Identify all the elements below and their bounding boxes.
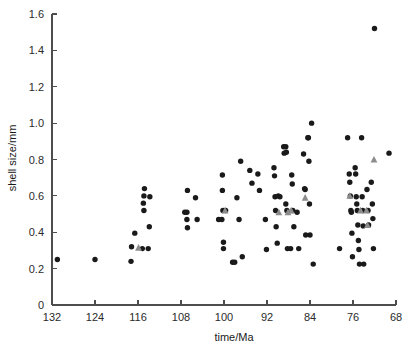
data-point-circle — [263, 217, 268, 222]
data-point-circle — [306, 159, 311, 164]
data-point-circle — [349, 230, 354, 235]
data-point-circle — [356, 247, 361, 252]
data-point-circle — [359, 135, 364, 140]
data-point-circle — [347, 171, 352, 176]
data-point-circle — [347, 180, 352, 185]
data-point-circle — [184, 217, 189, 222]
data-point-circle — [221, 246, 226, 251]
data-point-circle — [147, 194, 152, 199]
data-point-circle — [185, 225, 190, 230]
data-point-circle — [185, 188, 190, 193]
scatter-plot-figure: 00.20.40.60.81.01.21.41.6 13212411610810… — [0, 0, 416, 345]
y-axis-title: shell size/mm — [6, 125, 18, 192]
data-point-triangle — [371, 156, 378, 163]
x-tick-label: 84 — [304, 311, 316, 323]
data-point-circle — [301, 151, 306, 156]
tick-marks-group — [52, 14, 396, 305]
data-point-circle — [364, 187, 369, 192]
data-point-circle — [288, 246, 293, 251]
data-point-circle — [264, 247, 269, 252]
data-point-circle — [92, 257, 97, 262]
data-point-circle — [257, 188, 262, 193]
data-point-circle — [337, 246, 342, 251]
data-point-circle — [289, 172, 294, 177]
data-point-circle — [147, 224, 152, 229]
data-point-circle — [255, 171, 260, 176]
x-tick-label: 132 — [43, 311, 61, 323]
x-axis-title: time/Ma — [214, 331, 254, 343]
data-point-circle — [277, 194, 282, 199]
x-tick-label: 100 — [215, 311, 233, 323]
series-circle-markers — [55, 26, 392, 267]
data-point-circle — [283, 201, 288, 206]
data-point-circle — [294, 210, 299, 215]
x-tick-label: 116 — [129, 311, 147, 323]
data-point-circle — [273, 224, 278, 229]
data-point-circle — [369, 180, 374, 185]
data-point-circle — [355, 222, 360, 227]
data-point-circle — [221, 240, 226, 245]
data-point-circle — [283, 144, 288, 149]
y-tick-label: 1.4 — [29, 44, 44, 56]
data-point-circle — [275, 240, 280, 245]
data-point-circle — [359, 194, 364, 199]
y-tick-label: 1.0 — [29, 117, 44, 129]
data-point-circle — [194, 217, 199, 222]
data-point-circle — [240, 254, 245, 259]
data-point-circle — [296, 246, 301, 251]
data-point-circle — [249, 180, 254, 185]
y-tick-label: 0 — [38, 299, 44, 311]
data-point-circle — [129, 244, 134, 249]
data-point-circle — [302, 187, 307, 192]
x-tick-label: 124 — [86, 311, 104, 323]
data-points-group — [55, 26, 392, 267]
data-point-circle — [132, 230, 137, 235]
data-point-circle — [350, 254, 355, 259]
data-point-circle — [386, 150, 391, 155]
data-point-circle — [291, 224, 296, 229]
data-point-circle — [146, 246, 151, 251]
data-point-circle — [128, 259, 133, 264]
data-point-circle — [142, 186, 147, 191]
data-point-circle — [272, 173, 277, 178]
data-point-circle — [370, 201, 375, 206]
data-point-circle — [352, 165, 357, 170]
data-point-circle — [220, 188, 225, 193]
data-point-circle — [284, 150, 289, 155]
data-point-triangle — [302, 194, 309, 201]
data-point-circle — [234, 195, 239, 200]
data-point-circle — [290, 181, 295, 186]
y-tick-label: 0.2 — [29, 263, 44, 275]
data-point-circle — [309, 120, 314, 125]
x-tick-label: 68 — [390, 311, 402, 323]
y-tick-label: 1.2 — [29, 81, 44, 93]
y-tick-label: 1.6 — [29, 8, 44, 20]
x-tick-label: 76 — [347, 311, 359, 323]
data-point-circle — [141, 193, 146, 198]
data-point-circle — [372, 26, 377, 31]
data-point-circle — [236, 217, 241, 222]
data-point-circle — [238, 159, 243, 164]
y-tick-label: 0.6 — [29, 190, 44, 202]
plot-canvas: 00.20.40.60.81.01.21.41.6 13212411610810… — [0, 0, 416, 345]
data-point-circle — [232, 260, 237, 265]
data-point-circle — [354, 201, 359, 206]
data-point-circle — [349, 210, 354, 215]
data-point-circle — [193, 195, 198, 200]
y-tick-labels-group: 00.20.40.60.81.01.21.41.6 — [29, 8, 44, 311]
data-point-circle — [184, 210, 189, 215]
data-point-circle — [219, 217, 224, 222]
x-tick-labels-group: 13212411610810092847668 — [43, 311, 402, 323]
data-point-circle — [354, 194, 359, 199]
data-point-circle — [271, 165, 276, 170]
data-point-circle — [220, 172, 225, 177]
data-point-circle — [55, 257, 60, 262]
data-point-circle — [353, 171, 358, 176]
y-tick-label: 0.8 — [29, 154, 44, 166]
data-point-circle — [141, 200, 146, 205]
data-point-circle — [361, 261, 366, 266]
data-point-circle — [345, 135, 350, 140]
data-point-circle — [141, 208, 146, 213]
y-tick-label: 0.4 — [29, 226, 44, 238]
data-point-circle — [247, 168, 252, 173]
